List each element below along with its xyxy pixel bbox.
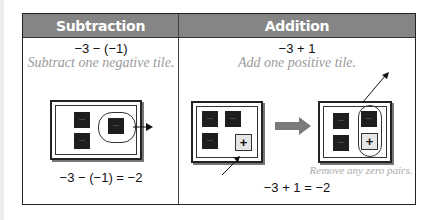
- negative-tile-zero-pair: [361, 111, 377, 127]
- header-addition: Addition: [179, 14, 415, 38]
- negative-tile: [74, 112, 90, 128]
- arrow-remove-icon: [363, 72, 391, 102]
- header-subtraction: Subtraction: [23, 14, 179, 38]
- subtraction-expression: −3 − (−1): [23, 41, 179, 56]
- negative-tile: [333, 113, 349, 129]
- addition-instruction: Add one positive tile.: [179, 55, 415, 71]
- integer-operations-table: Subtraction Addition −3 − (−1) Subtract …: [22, 13, 416, 205]
- transform-arrow-icon: [275, 117, 313, 135]
- subtraction-instruction: Subtract one negative tile.: [23, 55, 179, 71]
- negative-tile: [333, 135, 349, 151]
- negative-tile: [74, 133, 90, 149]
- addition-expression: −3 + 1: [179, 41, 415, 56]
- addition-mat-before: +: [191, 101, 263, 163]
- subtraction-mat: [50, 100, 142, 160]
- zero-pairs-note: Remove any zero pairs.: [306, 164, 416, 176]
- negative-tile: [225, 111, 241, 127]
- negative-tile: [202, 111, 218, 127]
- addition-result: −3 + 1 = −2: [179, 180, 415, 195]
- subtraction-result: −3 − (−1) = −2: [23, 170, 179, 185]
- negative-tile-removed: [108, 118, 124, 134]
- arrow-right-icon: [133, 122, 153, 132]
- arrow-up-right-icon: [222, 156, 242, 176]
- positive-tile-zero-pair: +: [361, 133, 378, 150]
- page-edge-strip: [0, 0, 4, 220]
- positive-tile: +: [235, 134, 252, 151]
- addition-mat-after: +: [318, 101, 392, 163]
- negative-tile: [202, 133, 218, 149]
